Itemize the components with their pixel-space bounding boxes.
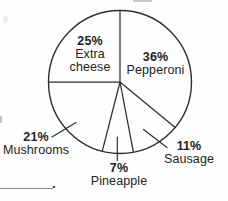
answer-blank-period: . [52, 176, 56, 190]
slice-label-pepperoni: 36% Pepperoni [127, 51, 185, 77]
slice-name-sausage: Sausage [164, 153, 214, 166]
slice-label-mushrooms: 21% Mushrooms [3, 131, 69, 157]
answer-blank-line [0, 188, 53, 189]
slice-name-mushrooms: Mushrooms [3, 144, 69, 157]
pie-chart-figure: 25% Extra cheese 36% Pepperoni 21% Mushr… [0, 0, 228, 201]
slice-label-extra-cheese: 25% Extra cheese [67, 35, 113, 74]
slice-name-extra-cheese: Extra cheese [67, 48, 113, 74]
slice-label-pineapple: 7% Pineapple [91, 162, 148, 188]
pie-outline-group [49, 11, 192, 154]
slice-boundary-sausage [120, 82, 175, 128]
slice-name-pepperoni: Pepperoni [127, 64, 185, 77]
slice-label-sausage: 11% Sausage [164, 140, 214, 166]
leader-lines [52, 123, 167, 161]
slice-boundary-pineapple [120, 82, 133, 152]
slice-name-pineapple: Pineapple [91, 175, 148, 188]
